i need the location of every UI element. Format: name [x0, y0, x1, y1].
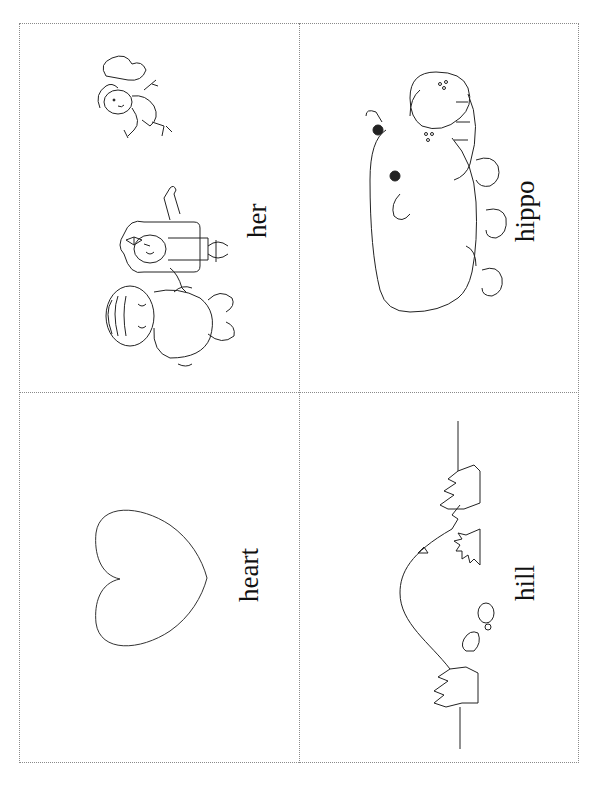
boy-icon — [106, 286, 234, 366]
word-label-hippo: hippo — [512, 180, 539, 242]
word-label-heart: heart — [236, 548, 263, 602]
word-label-her: her — [244, 204, 271, 238]
card-hippo: hippo — [300, 24, 579, 392]
card-hill: hill — [300, 393, 579, 762]
flashcard-page: her hippo heart — [0, 0, 595, 786]
word-label-hill: hill — [512, 565, 539, 601]
card-heart: heart — [20, 393, 299, 762]
girl-icon — [120, 186, 228, 292]
card-her: her — [20, 24, 299, 392]
baby-icon — [98, 56, 172, 138]
